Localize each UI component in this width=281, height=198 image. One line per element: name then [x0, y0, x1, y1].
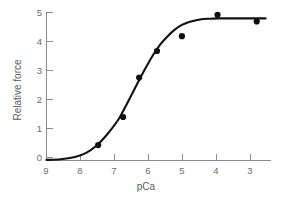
y-axis-title: Relative force [12, 59, 23, 121]
data-point [254, 18, 260, 24]
sigmoid-fit-curve [47, 18, 266, 160]
data-point [120, 114, 126, 120]
x-tick-label-8: 8 [77, 165, 82, 176]
y-tick-label-0: 0 [37, 152, 42, 163]
y-axis-ticks [47, 13, 54, 158]
data-point [95, 142, 101, 148]
chart-figure: 5 4 3 2 1 0 9 8 7 6 5 4 3 pCa Relative f… [0, 0, 281, 198]
y-tick-label-1: 1 [37, 123, 42, 134]
data-point [136, 75, 142, 81]
x-tick-label-7: 7 [111, 165, 116, 176]
y-tick-label-2: 2 [37, 94, 42, 105]
y-tick-label-5: 5 [37, 7, 42, 18]
y-tick-label-4: 4 [37, 36, 42, 47]
data-point [214, 12, 220, 18]
data-point-group [95, 12, 260, 148]
x-tick-label-3: 3 [247, 165, 252, 176]
data-point [179, 33, 185, 39]
chart-plot-area: 5 4 3 2 1 0 9 8 7 6 5 4 3 pCa Relative f… [0, 0, 281, 198]
y-tick-label-3: 3 [37, 65, 42, 76]
x-tick-label-5: 5 [179, 165, 184, 176]
x-tick-label-4: 4 [213, 165, 218, 176]
x-tick-label-9: 9 [43, 165, 48, 176]
data-point [154, 48, 160, 54]
x-axis-title: pCa [137, 181, 156, 192]
x-tick-label-6: 6 [145, 165, 150, 176]
